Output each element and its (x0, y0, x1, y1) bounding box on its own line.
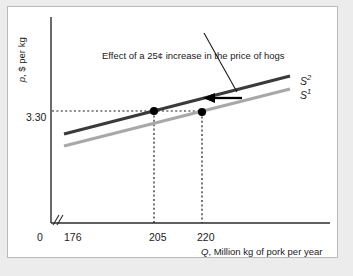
annotation-leader-line (204, 33, 237, 92)
series-label-s1-superscript: 1 (307, 87, 311, 96)
series-label-s1: S1 (300, 88, 311, 100)
x-tick-label-176: 176 (64, 232, 82, 243)
y-axis-title-symbol: p (16, 77, 27, 82)
series-label-s2: S2 (300, 74, 311, 86)
x-tick-label-220: 220 (197, 232, 215, 243)
series-label-s2-base: S (300, 75, 307, 87)
figure-root: p, $ per kg Q, Million kg of pork per ye… (0, 0, 353, 276)
x-tick-label-0: 0 (37, 232, 43, 243)
chart-panel: p, $ per kg Q, Million kg of pork per ye… (7, 6, 338, 258)
x-tick-label-205: 205 (149, 232, 167, 243)
x-axis-title-text: , Million kg of pork per year (208, 246, 322, 257)
supply-shift-chart (8, 7, 337, 257)
x-axis-title: Q, Million kg of pork per year (201, 247, 322, 257)
equilibrium-marker-220 (198, 108, 206, 116)
y-axis-title-text: , $ per kg (16, 37, 27, 77)
shift-arrow-head (203, 93, 215, 103)
y-axis-title: p, $ per kg (17, 29, 27, 91)
y-tick-label-3-30: 3.30 (26, 112, 46, 123)
equilibrium-marker-205 (150, 107, 158, 115)
series-label-s2-superscript: 2 (307, 73, 311, 82)
supply-curve-s2 (64, 76, 290, 134)
supply-curve-s1 (64, 89, 290, 146)
series-label-s1-base: S (300, 89, 307, 101)
annotation-label: Effect of a 25¢ increase in the price of… (102, 51, 285, 61)
